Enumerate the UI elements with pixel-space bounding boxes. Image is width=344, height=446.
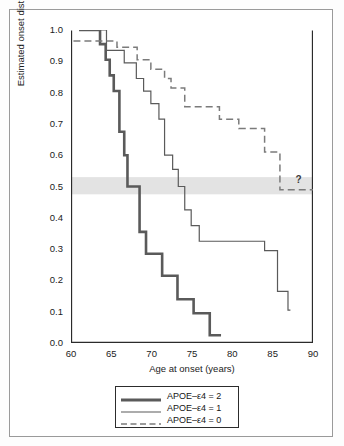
y-tick-label: 0.6	[37, 150, 63, 160]
median-band	[71, 177, 313, 194]
y-tick-label: 0.7	[37, 119, 63, 129]
legend-swatch-dashed	[121, 415, 161, 425]
y-tick-label: 0.8	[37, 88, 63, 98]
legend-label: APOE–ε4 = 0	[167, 415, 221, 425]
legend-item: APOE–ε4 = 1	[121, 402, 233, 414]
y-tick-label: 0.5	[37, 182, 63, 192]
legend-swatch-thin-solid	[121, 403, 161, 413]
y-tick-label: 0.3	[37, 244, 63, 254]
legend-swatch-thick-solid	[121, 391, 161, 401]
x-tick-label: 65	[99, 349, 123, 359]
plot-svg	[71, 30, 313, 343]
x-tick-label: 60	[59, 349, 83, 359]
y-axis-label: Estimated onset distribution	[15, 0, 26, 108]
y-tick-label: 0.0	[37, 338, 63, 348]
unknown-median-marker: ?	[295, 174, 301, 185]
legend-item: APOE–ε4 = 0	[121, 414, 233, 426]
legend: APOE–ε4 = 2 APOE–ε4 = 1 APOE–ε4 = 0	[115, 386, 239, 428]
legend-label: APOE–ε4 = 1	[167, 403, 221, 413]
x-tick-label: 75	[180, 349, 204, 359]
y-tick-label: 1.0	[37, 25, 63, 35]
legend-label: APOE–ε4 = 2	[167, 391, 221, 401]
x-axis-label: Age at onset (years)	[71, 363, 313, 374]
legend-item: APOE–ε4 = 2	[121, 390, 233, 402]
plot-area: Estimated onset distribution 0.00.10.20.…	[71, 30, 313, 343]
x-tick-label: 80	[220, 349, 244, 359]
x-tick-label: 85	[261, 349, 285, 359]
x-tick-label: 70	[140, 349, 164, 359]
x-tick-label: 90	[301, 349, 325, 359]
y-tick-label: 0.4	[37, 213, 63, 223]
y-tick-label: 0.1	[37, 307, 63, 317]
y-tick-label: 0.9	[37, 56, 63, 66]
y-tick-label: 0.2	[37, 275, 63, 285]
figure-container: Estimated onset distribution 0.00.10.20.…	[0, 0, 344, 446]
